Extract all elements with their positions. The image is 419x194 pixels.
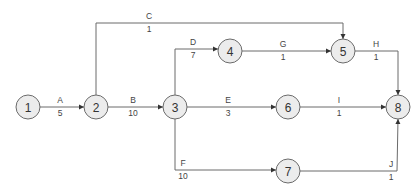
node-number-label: 3 — [172, 101, 179, 115]
activity-name-label: E — [225, 95, 231, 105]
event-node-8: 8 — [386, 95, 410, 119]
network-diagram: A5B10C1D7E3F10G1H1I1J1 12345678 — [0, 0, 419, 194]
activity-arrow-j — [300, 119, 398, 171]
activity-duration-label: 10 — [178, 171, 188, 181]
activity-arrow-d — [175, 49, 218, 95]
activity-name-label: F — [180, 158, 185, 168]
activity-name-label: C — [146, 11, 152, 21]
activity-name-label: J — [389, 159, 393, 169]
activity-duration-label: 3 — [226, 108, 231, 118]
node-number-label: 1 — [25, 101, 32, 115]
activity-duration-label: 10 — [128, 108, 138, 118]
activity-arrow-c — [96, 23, 343, 95]
activity-duration-label: 5 — [58, 108, 63, 118]
activity-name-label: G — [280, 39, 287, 49]
node-number-label: 7 — [285, 165, 292, 179]
event-node-4: 4 — [218, 39, 242, 63]
node-number-label: 8 — [395, 101, 402, 115]
activity-name-label: I — [338, 95, 340, 105]
activity-duration-label: 1 — [147, 24, 152, 34]
activity-duration-label: 1 — [337, 108, 342, 118]
activity-name-label: A — [57, 95, 63, 105]
activity-duration-label: 7 — [191, 50, 196, 60]
activity-duration-label: 1 — [389, 172, 394, 182]
activity-name-label: B — [130, 95, 136, 105]
node-number-label: 6 — [285, 101, 292, 115]
event-node-2: 2 — [84, 95, 108, 119]
node-number-label: 5 — [340, 45, 347, 59]
activity-arrow-f — [175, 119, 276, 170]
activity-duration-label: 1 — [281, 52, 286, 62]
activity-name-label: D — [190, 37, 196, 47]
event-node-7: 7 — [276, 159, 300, 183]
activity-name-label: H — [373, 39, 379, 49]
event-node-5: 5 — [331, 39, 355, 63]
event-node-3: 3 — [163, 95, 187, 119]
event-node-6: 6 — [276, 95, 300, 119]
node-number-label: 4 — [227, 45, 234, 59]
event-node-1: 1 — [16, 95, 40, 119]
node-number-label: 2 — [93, 101, 100, 115]
activity-duration-label: 1 — [374, 52, 379, 62]
